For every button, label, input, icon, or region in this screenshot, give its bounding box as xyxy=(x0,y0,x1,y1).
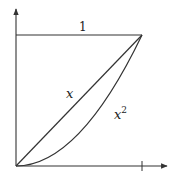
top-edge-label: 1 xyxy=(79,20,87,34)
diagram-canvas: 1 x x2 xyxy=(0,0,175,178)
line-y-equals-x xyxy=(16,35,142,166)
curve-label-exponent: 2 xyxy=(121,105,127,115)
curve-label: x2 xyxy=(114,105,127,122)
line-label: x xyxy=(66,86,74,101)
